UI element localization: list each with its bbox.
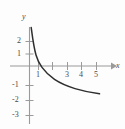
y-axis-label: y — [22, 13, 26, 21]
x-tick-label-3: 3 — [65, 71, 69, 79]
curve-log-decay — [31, 28, 99, 94]
figure-panel: ) y x 2 1 -1 -2 -3 1 3 4 5 — [0, 0, 125, 129]
x-axis-label: x — [116, 62, 120, 70]
y-tick-label-1: 1 — [17, 50, 21, 58]
x-tick-label-1: 1 — [36, 71, 40, 79]
y-tick-label-neg3: -3 — [12, 111, 19, 119]
y-tick-label-2: 2 — [17, 37, 21, 45]
x-tick-label-4: 4 — [79, 71, 83, 79]
graph-canvas — [0, 0, 125, 129]
y-tick-label-neg2: -2 — [12, 96, 19, 104]
y-tick-label-neg1: -1 — [12, 81, 19, 89]
x-tick-label-5: 5 — [94, 71, 98, 79]
